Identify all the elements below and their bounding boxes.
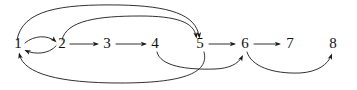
edge-5-to-1 bbox=[20, 52, 205, 83]
arrowhead-5-to-1 bbox=[17, 52, 23, 59]
node-label-1: 1 bbox=[14, 35, 22, 51]
arrowhead-2-to-1 bbox=[24, 48, 32, 55]
edge-2-to-5 bbox=[62, 16, 196, 40]
edge-4-to-6 bbox=[157, 52, 242, 69]
edge-1-to-2 bbox=[25, 37, 55, 43]
arrowhead-6-to-8 bbox=[328, 53, 334, 60]
node-label-6: 6 bbox=[241, 35, 249, 51]
graph-diagram-canvas: 12345678 bbox=[0, 0, 357, 90]
node-label-2: 2 bbox=[58, 35, 66, 51]
node-label-5: 5 bbox=[196, 35, 204, 51]
node-label-3: 3 bbox=[103, 35, 111, 51]
graph-svg: 12345678 bbox=[0, 0, 357, 90]
node-label-4: 4 bbox=[151, 35, 159, 51]
edge-6-to-8 bbox=[247, 52, 331, 73]
arrowhead-1-to-2 bbox=[50, 36, 58, 44]
nodes-layer: 12345678 bbox=[14, 35, 337, 51]
edge-2-to-1 bbox=[26, 46, 57, 53]
node-label-8: 8 bbox=[329, 35, 337, 51]
node-label-7: 7 bbox=[286, 35, 294, 51]
